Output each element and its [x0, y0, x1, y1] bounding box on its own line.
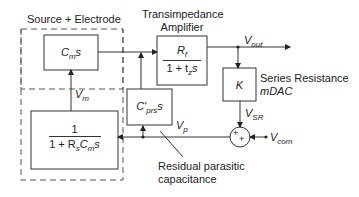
residual-label-1: Residual parasitic [158, 160, 245, 172]
summer-plus-bottom: + [239, 133, 244, 145]
vp-label: Vp [176, 119, 188, 136]
vcom-label: Vcom [270, 131, 292, 148]
amplifier-label-2: Amplifier [142, 21, 222, 33]
vsr-label: VSR [245, 107, 263, 124]
vm-label: Vm [75, 88, 89, 105]
series-resistance-label-2: mDAC [260, 85, 292, 97]
cm-block-label: Cms [44, 46, 98, 63]
amplifier-label-1: Transimpedance [142, 8, 222, 20]
vcom-node [264, 135, 267, 138]
residual-label-2: capacitance [158, 173, 217, 185]
vout-node [236, 45, 239, 48]
k-block-label: K [223, 79, 256, 91]
source-electrode-label: Source + Electrode [27, 13, 121, 25]
cprs-block-label: C'prss [127, 100, 172, 117]
rf-block-label: Rf 1 + tzs [157, 44, 207, 77]
vout-label: Vout [244, 34, 262, 51]
vp-node [141, 135, 144, 138]
series-resistance-label-1: Series Resistance [260, 72, 349, 84]
summer-plus-top: + [233, 127, 238, 139]
source-block-label: 1 1 + RsCms [31, 123, 118, 153]
